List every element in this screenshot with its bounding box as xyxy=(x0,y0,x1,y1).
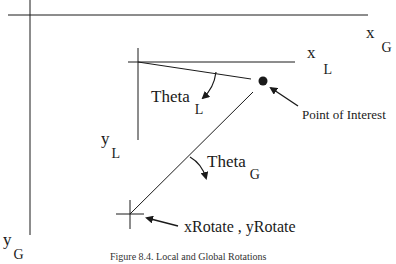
theta-global-main: Theta xyxy=(207,152,246,171)
x-global-main: x xyxy=(366,23,375,42)
theta-local-arc-icon xyxy=(203,72,216,98)
x-global-label: xG xyxy=(366,24,385,41)
rotate-origin-arrow xyxy=(147,218,178,226)
theta-global-arc-icon xyxy=(190,157,206,178)
point-of-interest-label: Point of Interest xyxy=(302,108,386,121)
x-global-sub: G xyxy=(382,40,392,55)
theta-global-sub: G xyxy=(250,167,260,182)
x-local-sub: L xyxy=(324,62,333,77)
theta-local-label: ThetaL xyxy=(151,88,198,105)
y-local-sub: L xyxy=(112,146,121,161)
y-global-main: y xyxy=(3,230,12,249)
theta-local-sub: L xyxy=(195,102,204,117)
figure-caption: Figure 8.4. Local and Global Rotations xyxy=(110,252,266,262)
point-of-interest-arrow xyxy=(271,88,298,106)
y-local-main: y xyxy=(101,129,110,148)
point-of-interest-dot xyxy=(259,77,268,86)
y-global-label: yG xyxy=(3,231,22,248)
theta-global-label: ThetaG xyxy=(207,153,256,170)
rotate-origin-label: xRotate , yRotate xyxy=(184,219,296,235)
local-rotation-line xyxy=(138,62,251,79)
y-global-sub: G xyxy=(14,247,24,262)
theta-local-main: Theta xyxy=(151,87,190,106)
x-local-label: xL xyxy=(307,44,324,61)
x-local-main: x xyxy=(307,43,316,62)
y-local-label: yL xyxy=(101,130,118,147)
